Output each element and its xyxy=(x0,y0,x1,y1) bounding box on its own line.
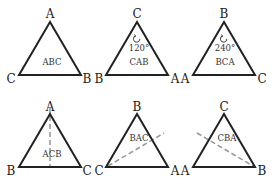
triangle-abc: A C B ABC xyxy=(6,7,91,86)
vertex-right-label: B xyxy=(258,164,267,178)
vertex-right-label: C xyxy=(257,72,266,86)
vertex-top-label: C xyxy=(219,100,228,114)
vertex-top-label: A xyxy=(45,7,55,21)
triangle-acb: A B C ACB xyxy=(7,100,92,178)
rotation-angle: 120° xyxy=(129,43,149,53)
vertex-right-label: A xyxy=(170,72,180,86)
vertex-right-label: A xyxy=(170,164,180,178)
triangle-outline xyxy=(19,22,81,75)
vertex-top-label: C xyxy=(132,7,141,21)
vertex-left-label: C xyxy=(94,164,103,178)
vertex-left-label: B xyxy=(7,164,16,178)
triangle-label: CAB xyxy=(130,57,149,67)
symmetry-diagram: A C B ABC C B A 120° CAB B A C 240° BCA … xyxy=(0,0,274,185)
rotation-arrow-icon xyxy=(133,35,139,43)
vertex-top-label: B xyxy=(220,7,229,21)
triangle-label: CBA xyxy=(218,133,238,143)
triangle-label: ABC xyxy=(41,57,61,67)
vertex-top-label: A xyxy=(45,100,55,114)
triangle-bca: B A C 240° BCA xyxy=(180,7,267,86)
vertex-left-label: A xyxy=(180,164,190,178)
triangle-label: BCA xyxy=(215,57,235,67)
vertex-right-label: B xyxy=(83,72,92,86)
rotation-arrow-icon xyxy=(220,35,226,43)
vertex-top-label: B xyxy=(133,100,142,114)
triangle-cba: C A B CBA xyxy=(180,100,267,178)
vertex-left-label: B xyxy=(95,72,104,86)
triangle-label: ACB xyxy=(42,149,62,159)
triangle-cab: C B A 120° CAB xyxy=(95,7,180,86)
triangle-label: BAC xyxy=(130,133,149,143)
rotation-angle: 240° xyxy=(215,43,235,53)
vertex-right-label: C xyxy=(82,164,91,178)
vertex-left-label: C xyxy=(6,72,15,86)
vertex-left-label: A xyxy=(180,72,190,86)
triangle-bac: B C A BAC xyxy=(94,100,179,178)
